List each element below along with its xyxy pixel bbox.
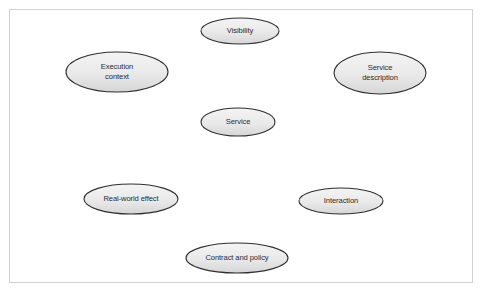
node-label-line: Visibility	[227, 26, 254, 35]
node-label-line: Service	[226, 117, 251, 126]
node-label-line: Interaction	[324, 196, 358, 205]
diagram-nodes-layer: VisibilityExecutioncontextServicedescrip…	[66, 18, 426, 273]
diagram-node-service-description[interactable]: Servicedescription	[334, 52, 426, 94]
node-label-execution-context: Executioncontext	[101, 62, 133, 81]
node-label-line: Execution	[101, 62, 133, 71]
node-label-line: Real-world effect	[103, 194, 159, 203]
node-label-contract-and-policy: Contract and policy	[205, 253, 268, 262]
diagram-node-contract-and-policy[interactable]: Contract and policy	[186, 243, 288, 273]
diagram-node-interaction[interactable]: Interaction	[299, 188, 383, 214]
diagram-canvas: VisibilityExecutioncontextServicedescrip…	[0, 0, 483, 292]
diagram-node-visibility[interactable]: Visibility	[201, 18, 279, 44]
diagram-node-real-world-effect[interactable]: Real-world effect	[84, 184, 178, 214]
node-label-real-world-effect: Real-world effect	[103, 194, 159, 203]
node-label-line: description	[362, 73, 398, 82]
diagram-root: VisibilityExecutioncontextServicedescrip…	[0, 0, 483, 292]
diagram-node-execution-context[interactable]: Executioncontext	[66, 52, 168, 92]
node-label-line: Service	[368, 63, 393, 72]
node-label-line: context	[105, 72, 130, 81]
node-label-line: Contract and policy	[205, 253, 268, 262]
node-label-visibility: Visibility	[227, 26, 254, 35]
node-label-service: Service	[226, 117, 251, 126]
diagram-node-service[interactable]: Service	[201, 108, 275, 136]
node-label-interaction: Interaction	[324, 196, 358, 205]
